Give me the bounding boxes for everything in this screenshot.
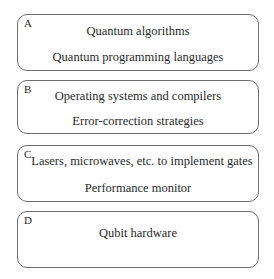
layer-c-line-1: Lasers, microwaves, etc. to implement ga… [18, 154, 258, 168]
layer-a: A Quantum algorithms Quantum programming… [17, 14, 259, 71]
layer-b: B Operating systems and compilers Error-… [17, 80, 259, 134]
layer-b-line-2: Error-correction strategies [18, 114, 258, 128]
layer-c: C Lasers, microwaves, etc. to implement … [17, 145, 259, 202]
layer-d-letter: D [24, 214, 32, 226]
layer-b-line-1: Operating systems and compilers [18, 89, 258, 103]
layer-c-line-2: Performance monitor [18, 181, 258, 195]
layer-d: D Qubit hardware [17, 211, 259, 268]
layer-a-line-1: Quantum algorithms [18, 24, 258, 38]
layer-a-line-2: Quantum programming languages [18, 50, 258, 64]
layer-d-line-1: Qubit hardware [18, 226, 258, 240]
